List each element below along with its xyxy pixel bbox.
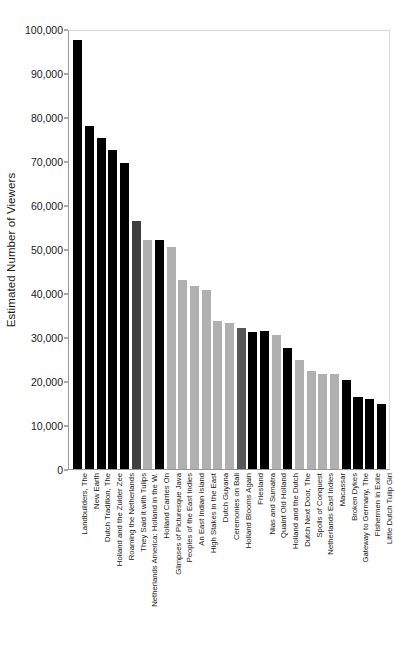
x-tick-label-slot: Holland Carries On	[153, 471, 165, 653]
bar-slot	[200, 31, 212, 469]
bar	[353, 397, 362, 469]
bar-slot	[317, 31, 329, 469]
x-tick-label-slot: Netherlands America: Holland in the W.	[141, 471, 153, 653]
bar	[155, 240, 164, 469]
x-tick-label-slot: Nias and Sumatra	[259, 471, 271, 653]
bar-slot	[375, 31, 387, 469]
bar-slot	[305, 31, 317, 469]
x-tick-label-slot: They Said it with Tulips	[130, 471, 142, 653]
bar	[73, 40, 82, 469]
y-tick-label: 0	[57, 464, 63, 476]
x-tick-label-slot: Roaming the Netherlands	[118, 471, 130, 653]
y-tick-label: 90,000	[31, 68, 63, 80]
bar-slot	[235, 31, 247, 469]
x-tick-label-slot: High Stakes in the East	[200, 471, 212, 653]
bar-slot	[294, 31, 306, 469]
bar	[167, 247, 176, 469]
x-tick-label-slot: Netherlands East Indies	[317, 471, 329, 653]
bar	[85, 126, 94, 469]
y-axis-tick-labels: 100,00090,00080,00070,00060,00050,00040,…	[18, 0, 68, 500]
bar-slot	[119, 31, 131, 469]
y-tick-label: 80,000	[31, 112, 63, 124]
y-axis-title-text: Estimated Number of Viewers	[5, 173, 17, 328]
bar-slot	[72, 31, 84, 469]
bar-slot	[329, 31, 341, 469]
bar	[365, 399, 374, 469]
x-tick-label-slot: Dutch Guyana	[212, 471, 224, 653]
x-tick-label-slot: Peoples of the East Indies	[177, 471, 189, 653]
y-tick-label: 60,000	[31, 200, 63, 212]
y-tick-label: 50,000	[31, 244, 63, 256]
x-axis-tick-labels: Landbuilders, TheNew EarthDutch Traditio…	[68, 471, 390, 653]
y-tick-label: 100,000	[25, 24, 63, 36]
x-tick-label-slot: Spoils of Conquest	[306, 471, 318, 653]
bar-slot	[270, 31, 282, 469]
x-tick-label-slot: Dutch Tradition, The	[94, 471, 106, 653]
x-tick-label-slot: Ceremonies on Bali	[224, 471, 236, 653]
bar	[295, 360, 304, 469]
bar-slot	[189, 31, 201, 469]
bar	[260, 331, 269, 469]
bar-slot	[84, 31, 96, 469]
bar-slot	[130, 31, 142, 469]
bar	[248, 332, 257, 469]
x-tick-label-slot: Holland Blooms Again	[235, 471, 247, 653]
bar	[330, 374, 339, 469]
bar-slot	[212, 31, 224, 469]
x-tick-label-slot: Broken Dykes	[341, 471, 353, 653]
bar	[143, 240, 152, 469]
bar	[377, 404, 386, 469]
bar-slot	[165, 31, 177, 469]
y-tick-label: 10,000	[31, 420, 63, 432]
bar	[237, 328, 246, 469]
bar-slot	[224, 31, 236, 469]
bar	[213, 321, 222, 469]
y-tick-label: 40,000	[31, 288, 63, 300]
bar-slot	[352, 31, 364, 469]
bar	[318, 374, 327, 469]
bar-slot	[282, 31, 294, 469]
x-tick-label-slot: Dutch Next Door, The	[294, 471, 306, 653]
bar-slot	[154, 31, 166, 469]
bar	[307, 371, 316, 469]
x-tick-label-slot: Friesland	[247, 471, 259, 653]
x-tick-label-slot: Fishermen in Exile	[364, 471, 376, 653]
x-tick-label: Little Dutch Tulip Girl	[386, 473, 394, 544]
x-tick-label-slot: Holland and the Dutch	[282, 471, 294, 653]
bar	[132, 221, 141, 469]
y-tick-label: 70,000	[31, 156, 63, 168]
bar	[272, 335, 281, 469]
bar	[178, 280, 187, 469]
x-tick-label-slot: New Earth	[83, 471, 95, 653]
x-tick-label-slot: Landbuilders, The	[71, 471, 83, 653]
x-tick-label-slot: Gateway to Germany, The	[353, 471, 365, 653]
bar-series	[69, 31, 389, 469]
y-tick-label: 20,000	[31, 376, 63, 388]
bar	[202, 290, 211, 469]
bar	[342, 380, 351, 469]
bar-slot	[95, 31, 107, 469]
bar-slot	[364, 31, 376, 469]
y-tick-label: 30,000	[31, 332, 63, 344]
bar-chart-figure: Estimated Number of Viewers 100,00090,00…	[0, 0, 395, 656]
x-tick-label-slot: Glimpses of Picturesque Java	[165, 471, 177, 653]
bar-slot	[247, 31, 259, 469]
bar	[225, 323, 234, 469]
x-tick-label-slot: Holland and the Zuider Zee	[106, 471, 118, 653]
bar-slot	[107, 31, 119, 469]
x-tick-label-slot: Macassar	[329, 471, 341, 653]
x-tick-label-slot: Quaint Old Holland	[270, 471, 282, 653]
bar	[190, 286, 199, 469]
bar	[108, 150, 117, 469]
plot-area	[68, 30, 390, 470]
bar-slot	[340, 31, 352, 469]
bar	[97, 138, 106, 469]
bar-slot	[142, 31, 154, 469]
bar-slot	[177, 31, 189, 469]
bar-slot	[259, 31, 271, 469]
x-tick-label-slot: An East Indian Island	[188, 471, 200, 653]
bar	[120, 163, 129, 469]
bar	[283, 348, 292, 469]
x-tick-label-slot: Little Dutch Tulip Girl	[376, 471, 388, 653]
